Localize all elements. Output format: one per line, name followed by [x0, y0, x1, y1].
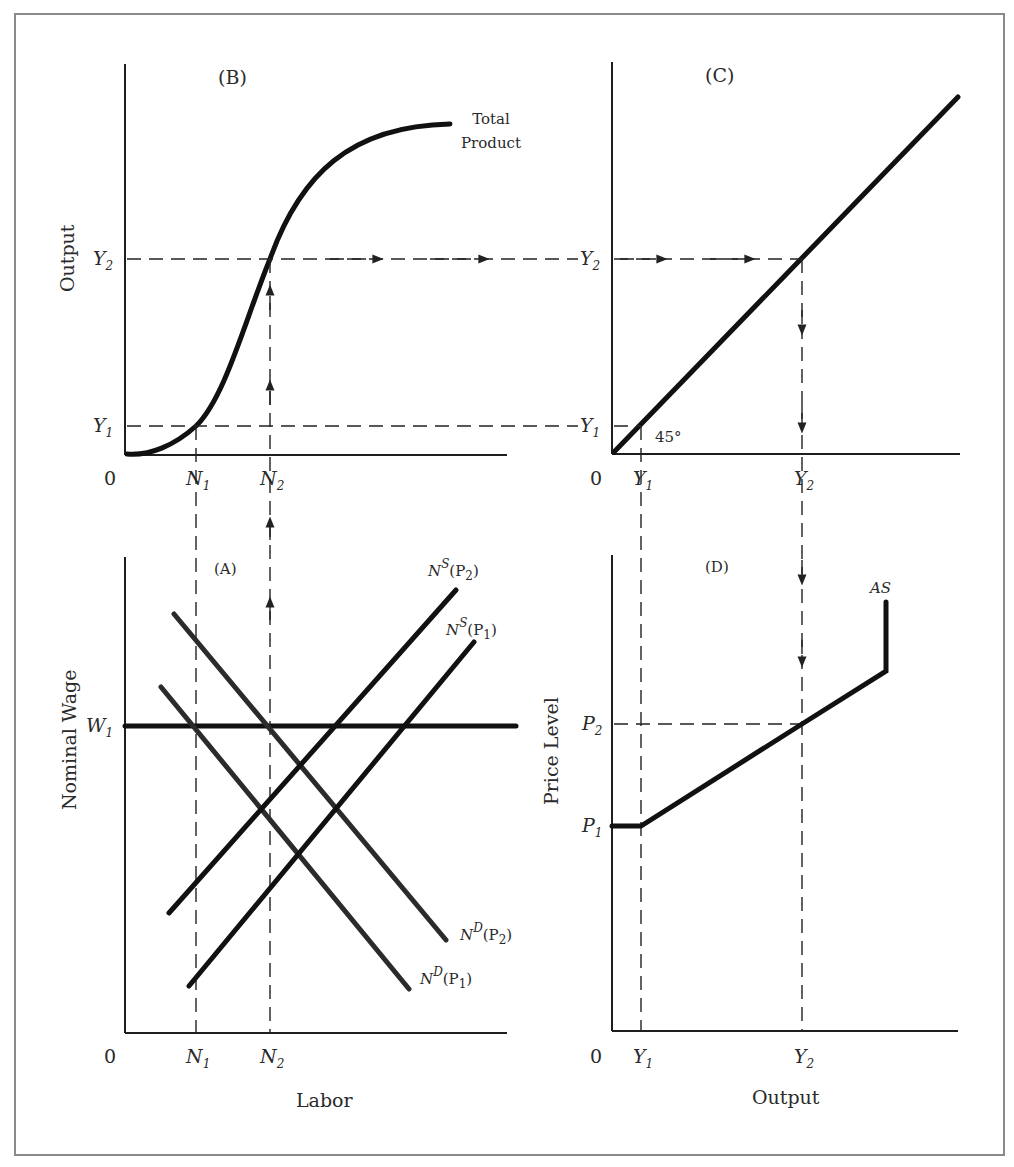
panel-a-tick-w1: W1 [86, 714, 113, 740]
panel-a-origin: 0 [104, 1045, 116, 1067]
macro-diagram: (B) Output 0 Y2 Y1 N1 N2 Total Product (… [0, 0, 1014, 1167]
panel-d-tick-p2: P2 [581, 712, 602, 738]
panel-d-origin: 0 [590, 1045, 602, 1067]
total-product-label: Total [472, 110, 510, 128]
panel-b: (B) Output 0 Y2 Y1 N1 N2 Total Product [56, 64, 521, 493]
labor-supply-p1-label: NS(P1) [445, 616, 497, 642]
panel-a-label: (A) [214, 560, 237, 578]
panel-d-x-axis-label: Output [752, 1086, 820, 1108]
panel-c-tick-x-y2: Y2 [794, 467, 814, 493]
panel-d-tick-y2: Y2 [794, 1045, 814, 1071]
angle-45-label: 45° [655, 428, 682, 446]
panel-b-label: (B) [218, 66, 247, 88]
panel-a: (A) Nominal Wage Labor 0 W1 N1 N2 NS(P2)… [58, 557, 516, 1111]
panel-d-tick-p1: P1 [581, 814, 602, 840]
panel-d-tick-y1: Y1 [633, 1045, 653, 1071]
labor-demand-p2-label: ND(P2) [459, 921, 512, 947]
panel-d-label: (D) [705, 558, 729, 576]
panel-c-label: (C) [705, 64, 734, 86]
panel-b-y-axis-label: Output [56, 224, 78, 292]
panel-a-tick-n1: N1 [185, 1045, 210, 1071]
panel-b-tick-n2: N2 [259, 467, 284, 493]
panel-c-tick-y2: Y2 [580, 247, 600, 273]
panel-c-tick-y1: Y1 [580, 414, 600, 440]
labor-supply-p1-line [189, 642, 474, 986]
panel-a-tick-n2: N2 [259, 1045, 284, 1071]
panel-c-tick-x-y1: Y1 [633, 467, 653, 493]
aggregate-supply-curve [612, 602, 886, 826]
aggregate-supply-label: AS [868, 579, 891, 597]
panel-b-origin: 0 [104, 467, 116, 489]
labor-supply-p2-label: NS(P2) [427, 557, 479, 583]
total-product-label-2: Product [461, 134, 521, 152]
panel-a-x-axis-label: Labor [296, 1089, 354, 1111]
figure-frame [15, 14, 1004, 1155]
panel-b-tick-n1: N1 [185, 467, 210, 493]
total-product-curve [127, 124, 450, 454]
panel-c-origin: 0 [590, 467, 602, 489]
panel-b-tick-y1: Y1 [93, 414, 113, 440]
panel-d-y-axis-label: Price Level [540, 697, 562, 805]
panel-c: (C) 0 Y2 Y1 Y1 Y2 45° [580, 62, 960, 493]
labor-demand-p1-line [161, 687, 409, 989]
panel-d: (D) Price Level Output 0 P2 P1 Y1 Y2 AS [540, 555, 958, 1108]
labor-demand-p1-label: ND(P1) [419, 965, 472, 991]
panel-a-y-axis-label: Nominal Wage [58, 670, 80, 810]
forty-five-degree-line [614, 97, 958, 452]
panel-b-tick-y2: Y2 [93, 247, 113, 273]
labor-demand-p2-line [174, 614, 446, 940]
